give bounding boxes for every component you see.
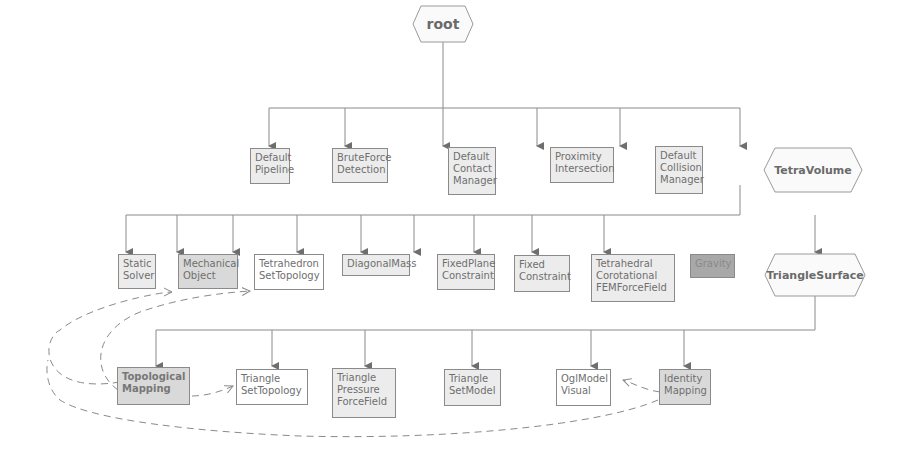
node-bruteforce-detection[interactable]: BruteForce Detection <box>332 148 388 183</box>
node-diagonal-mass[interactable]: DiagonalMass <box>342 254 410 276</box>
triangle-surface-node[interactable]: TriangleSurface <box>764 253 866 297</box>
node-oglmodel-visual[interactable]: OglModel Visual <box>556 369 611 406</box>
root-label: root <box>427 16 460 32</box>
triangle-surface-label: TriangleSurface <box>766 269 863 282</box>
node-default-collision-manager[interactable]: Default Collision Manager <box>655 146 703 194</box>
node-mechanical-object[interactable]: Mechanical Object <box>178 254 238 289</box>
node-fixedplane-constraint[interactable]: FixedPlane Constraint <box>437 254 495 290</box>
tetra-volume-node[interactable]: TetraVolume <box>763 147 863 193</box>
node-triangle-setmodel[interactable]: Triangle SetModel <box>444 369 501 406</box>
tetra-volume-label: TetraVolume <box>774 164 852 177</box>
node-default-contact-manager[interactable]: Default Contact Manager <box>448 147 496 195</box>
node-triangle-pressure-forcefield[interactable]: Triangle Pressure ForceField <box>332 368 396 418</box>
node-gravity[interactable]: Gravity <box>690 254 735 278</box>
node-identity-mapping[interactable]: Identity Mapping <box>659 369 711 405</box>
node-default-pipeline[interactable]: Default Pipeline <box>250 148 290 184</box>
node-tetrahedron-settopology[interactable]: Tetrahedron SetTopology <box>254 254 324 290</box>
scene-graph-diagram: root Default Pipeline BruteForce Detecti… <box>0 0 914 459</box>
node-static-solver[interactable]: Static Solver <box>118 254 156 289</box>
root-node[interactable]: root <box>412 5 474 43</box>
node-triangle-settopology[interactable]: Triangle SetTopology <box>236 369 308 405</box>
node-topological-mapping[interactable]: Topological Mapping <box>117 367 190 405</box>
node-proximity-intersection[interactable]: Proximity Intersection <box>550 147 614 183</box>
node-fixed-constraint[interactable]: Fixed Constraint <box>514 255 570 292</box>
node-tetrahedral-corotational-femforcefield[interactable]: Tetrahedral Corotational FEMForceField <box>591 254 675 302</box>
